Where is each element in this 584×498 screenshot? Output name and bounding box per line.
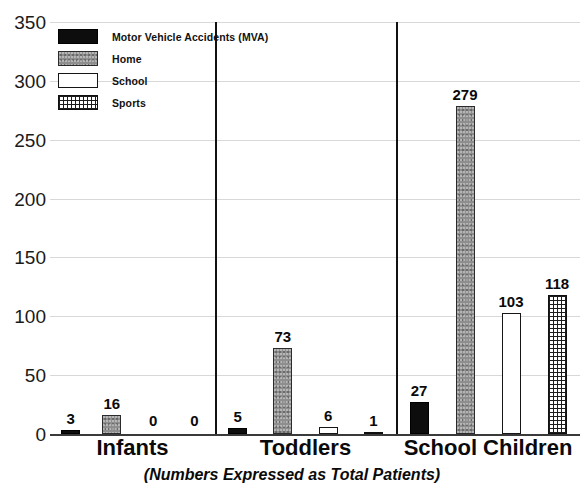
legend-item-mva: Motor Vehicle Accidents (MVA)	[58, 26, 268, 47]
category-label-toddlers: Toddlers	[260, 437, 351, 459]
bar-sports-school-children	[548, 295, 567, 434]
y-axis-tick-200: 200	[0, 189, 46, 208]
bar-mva-school-children	[410, 402, 429, 434]
legend-label-school: School	[112, 75, 148, 87]
legend-swatch-school-icon	[58, 73, 98, 88]
bar-mva-infants	[61, 430, 80, 434]
value-label-sports-school-children: 118	[545, 276, 569, 291]
legend-label-sports: Sports	[112, 97, 146, 109]
gridline	[50, 316, 580, 317]
bar-school-toddlers	[319, 427, 338, 434]
legend-label-mva: Motor Vehicle Accidents (MVA)	[112, 31, 268, 43]
category-label-infants: Infants	[96, 437, 168, 459]
legend-swatch-home-icon	[58, 51, 98, 66]
bar-sports-toddlers	[364, 432, 383, 434]
chart-caption: (Numbers Expressed as Total Patients)	[0, 466, 584, 484]
value-label-school-infants: 0	[149, 413, 157, 428]
gridline	[50, 140, 580, 141]
legend-swatch-mva-icon	[58, 29, 98, 44]
bar-school-school-children	[502, 313, 521, 434]
y-axis-tick-250: 250	[0, 130, 46, 149]
legend-item-home: Home	[58, 48, 268, 69]
y-axis-tick-0: 0	[0, 425, 46, 444]
gridline	[50, 199, 580, 200]
value-label-home-infants: 16	[104, 396, 121, 411]
y-axis-tick-350: 350	[0, 13, 46, 32]
bar-home-toddlers	[273, 348, 292, 434]
legend-swatch-sports-icon	[58, 95, 98, 110]
chart-legend: Motor Vehicle Accidents (MVA)HomeSchoolS…	[58, 26, 268, 114]
gridline	[50, 22, 580, 23]
value-label-mva-school-children: 27	[411, 383, 428, 398]
value-label-school-school-children: 103	[498, 294, 523, 309]
bar-chart: 350300250200150100500 316005736127279103…	[0, 0, 584, 498]
y-axis-tick-300: 300	[0, 71, 46, 90]
gridline	[50, 375, 580, 376]
value-label-sports-infants: 0	[190, 413, 198, 428]
legend-item-school: School	[58, 70, 268, 91]
category-label-school-children: School Children	[404, 437, 573, 459]
value-label-mva-toddlers: 5	[233, 409, 241, 424]
gridline	[50, 257, 580, 258]
y-axis-tick-150: 150	[0, 248, 46, 267]
bar-home-school-children	[456, 106, 475, 434]
y-axis-tick-50: 50	[0, 366, 46, 385]
bar-mva-toddlers	[228, 428, 247, 434]
y-axis-tick-100: 100	[0, 307, 46, 326]
legend-item-sports: Sports	[58, 92, 268, 113]
bar-home-infants	[102, 415, 121, 434]
value-label-mva-infants: 3	[66, 411, 74, 426]
value-label-sports-toddlers: 1	[369, 413, 377, 428]
value-label-home-school-children: 279	[452, 87, 477, 102]
value-label-school-toddlers: 6	[324, 408, 332, 423]
group-separator-2	[396, 22, 398, 434]
value-label-home-toddlers: 73	[275, 329, 292, 344]
legend-label-home: Home	[112, 53, 142, 65]
